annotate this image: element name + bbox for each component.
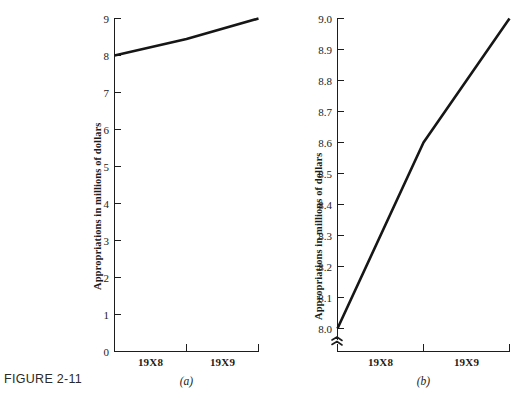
y-tick-label-b-7: 8.7 — [318, 106, 332, 118]
chart-panel-a: Appropriations in millions of dollars 9 — [0, 0, 268, 408]
y-tick-label-b-1: 8.1 — [318, 292, 332, 304]
y-tick-label-a-7: 7 — [104, 87, 110, 99]
x-category-label-b-0: 19X8 — [368, 356, 394, 368]
data-series-line-a — [115, 19, 259, 56]
x-tick-group-a — [115, 344, 259, 352]
y-tick-label-a-5: 5 — [104, 161, 110, 173]
y-tick-label-b-10: 9.0 — [318, 13, 332, 25]
y-tick-label-b-2: 8.2 — [318, 261, 332, 273]
plot-area-b: 9.0 8.9 8.8 8.7 8.6 8.5 8.4 8.3 8.2 8.1 … — [261, 0, 529, 408]
panel-label-a: (a) — [180, 375, 194, 388]
y-tick-label-a-4: 4 — [104, 198, 110, 210]
y-tick-label-a-1: 1 — [104, 309, 110, 321]
y-tick-group-a — [115, 19, 122, 352]
y-tick-group-b — [338, 19, 345, 329]
y-tick-label-a-8: 8 — [104, 50, 110, 62]
y-tick-label-a-0: 0 — [104, 346, 110, 358]
y-tick-label-b-9: 8.9 — [318, 44, 332, 56]
y-tick-label-a-9: 9 — [104, 13, 110, 25]
figure-container: Appropriations in millions of dollars 9 — [0, 0, 529, 408]
y-tick-label-b-3: 8.3 — [318, 230, 332, 242]
chart-panel-b: Appropriations in millions of dollars — [261, 0, 529, 408]
x-category-label-b-1: 19X9 — [454, 356, 480, 368]
y-tick-label-a-6: 6 — [104, 124, 110, 136]
data-series-line-b — [338, 19, 510, 329]
x-category-label-a-0: 19X8 — [138, 356, 164, 368]
y-tick-label-a-3: 3 — [104, 235, 110, 247]
panel-label-b: (b) — [417, 375, 431, 388]
y-tick-label-b-0: 8.0 — [318, 323, 332, 335]
figure-caption: FIGURE 2-11 — [4, 372, 82, 386]
y-tick-label-b-8: 8.8 — [318, 75, 332, 87]
y-tick-label-b-6: 8.6 — [318, 137, 332, 149]
plot-area-a: 9 8 7 6 5 4 3 2 1 0 19X8 19X9 (a) — [0, 0, 268, 408]
y-tick-label-b-5: 8.5 — [318, 168, 332, 180]
x-category-label-a-1: 19X9 — [210, 356, 236, 368]
y-tick-label-a-2: 2 — [104, 272, 110, 284]
y-tick-label-b-4: 8.4 — [318, 199, 332, 211]
x-tick-group-b — [338, 344, 510, 352]
